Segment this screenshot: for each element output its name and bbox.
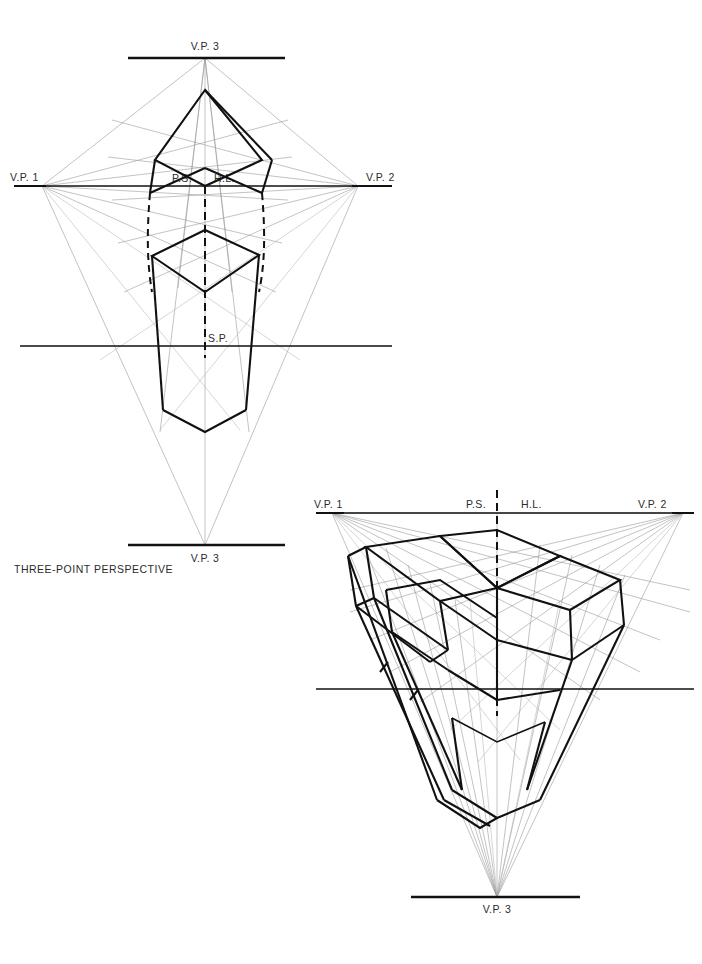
figure-2-vp2-label: V.P. 2 — [638, 498, 667, 510]
figure-2-block-assembly — [348, 530, 624, 828]
figure-1-vp3-top-label: V.P. 3 — [191, 40, 220, 52]
figure-1-vp1-label: V.P. 1 — [10, 171, 39, 183]
figure-1-group: V.P. 3 V.P. 1 V.P. 2 P.S. H.L. S.P. — [10, 40, 395, 564]
figure-2-construction-rays-vp3 — [332, 513, 683, 897]
figure-2-ps-label: P.S. — [466, 498, 486, 510]
figure-2-slab-top-right — [440, 530, 560, 588]
figure-2-vp1-label: V.P. 1 — [314, 498, 343, 510]
figure-2-hl-label: H.L. — [521, 498, 542, 510]
figure-2-group: V.P. 1 V.P. 2 P.S. H.L. — [314, 490, 694, 915]
figure-2-lower-vee — [452, 790, 540, 818]
figure-2-slab-top-far-right — [497, 556, 620, 610]
figure-1-hidden-edge-left — [148, 193, 152, 292]
figure-1-vp2-label: V.P. 2 — [366, 171, 395, 183]
figure-1-sp-label: S.P. — [208, 332, 228, 344]
figure-1-construction-rays-vp1 — [42, 120, 300, 430]
figure-1-construction-rays-vp3-top — [160, 58, 249, 545]
figure-1-construction-rays-outer — [42, 58, 358, 545]
perspective-plate: V.P. 3 V.P. 1 V.P. 2 P.S. H.L. S.P. — [0, 0, 702, 964]
figure-1-upper-cube — [150, 90, 272, 193]
figure-2-vp3-label: V.P. 3 — [483, 903, 512, 915]
drawing-sheet: V.P. 3 V.P. 1 V.P. 2 P.S. H.L. S.P. — [0, 0, 702, 964]
plate-caption: THREE-POINT PERSPECTIVE — [14, 563, 173, 575]
figure-1-hidden-edge-right — [259, 193, 264, 292]
figure-1-lower-cube-bottom-vee — [163, 410, 246, 432]
figure-1-vp3-bottom-label: V.P. 3 — [191, 552, 220, 564]
